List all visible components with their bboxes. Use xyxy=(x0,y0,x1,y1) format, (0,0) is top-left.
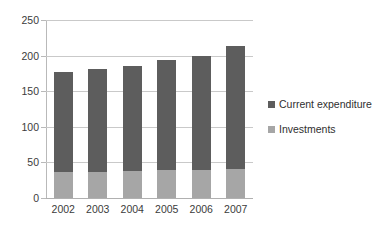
stacked-bar-chart: 050100150200250 Current expenditureInves… xyxy=(0,0,387,232)
bar-group[interactable] xyxy=(192,56,211,198)
y-axis-tick-label: 100 xyxy=(0,122,39,132)
bar-segment-current-expenditure[interactable] xyxy=(123,66,142,171)
legend-label: Current expenditure xyxy=(279,98,372,110)
bar-segment-current-expenditure[interactable] xyxy=(192,56,211,170)
bar-group[interactable] xyxy=(88,69,107,198)
legend-swatch-icon xyxy=(268,101,275,108)
bar-group[interactable] xyxy=(157,60,176,198)
y-axis-tick-label: 0 xyxy=(0,193,39,203)
x-axis-tick-label: 2004 xyxy=(115,203,150,215)
bar-segment-investments[interactable] xyxy=(54,172,73,198)
bar-segment-investments[interactable] xyxy=(88,172,107,198)
y-tick-50 xyxy=(41,162,46,163)
y-tick-100 xyxy=(41,127,46,128)
bar-group[interactable] xyxy=(123,66,142,198)
x-axis-tick-label: 2005 xyxy=(150,203,185,215)
chart-legend: Current expenditureInvestments xyxy=(268,98,386,148)
y-axis-tick-label: 50 xyxy=(0,157,39,167)
y-tick-250 xyxy=(41,20,46,21)
legend-item[interactable]: Investments xyxy=(268,123,386,135)
x-axis-tick-label: 2006 xyxy=(184,203,219,215)
y-axis-tick-label: 250 xyxy=(0,15,39,25)
x-axis-tick-label: 2003 xyxy=(81,203,116,215)
bar-group[interactable] xyxy=(226,46,245,198)
y-axis-tick-label: 200 xyxy=(0,51,39,61)
legend-label: Investments xyxy=(279,123,336,135)
y-tick-0 xyxy=(41,198,46,199)
bar-segment-current-expenditure[interactable] xyxy=(226,46,245,169)
bar-segment-investments[interactable] xyxy=(192,170,211,198)
bar-segment-investments[interactable] xyxy=(157,170,176,198)
plot-area xyxy=(46,20,253,198)
bar-segment-investments[interactable] xyxy=(123,171,142,198)
bar-group[interactable] xyxy=(54,72,73,198)
bar-segment-investments[interactable] xyxy=(226,169,245,198)
bar-segment-current-expenditure[interactable] xyxy=(54,72,73,172)
x-axis-tick-label: 2007 xyxy=(219,203,254,215)
x-axis-tick-label: 2002 xyxy=(46,203,81,215)
legend-swatch-icon xyxy=(268,126,275,133)
y-axis-tick-label: 150 xyxy=(0,86,39,96)
y-tick-150 xyxy=(41,91,46,92)
y-axis-labels: 050100150200250 xyxy=(0,0,39,232)
bar-series-container xyxy=(46,20,253,198)
bar-segment-current-expenditure[interactable] xyxy=(88,69,107,172)
legend-item[interactable]: Current expenditure xyxy=(268,98,386,110)
bar-segment-current-expenditure[interactable] xyxy=(157,60,176,170)
y-tick-200 xyxy=(41,56,46,57)
gridline-0 xyxy=(46,198,253,199)
